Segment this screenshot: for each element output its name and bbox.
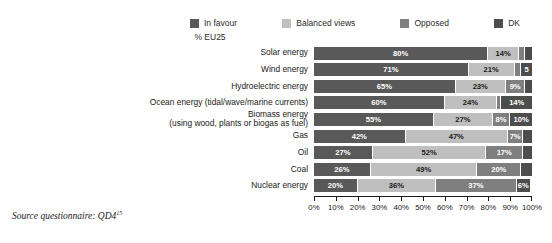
bar-segment-balanced-views: 47% xyxy=(406,130,508,143)
axis-tick xyxy=(358,197,359,201)
source-note-footnote-marker: 15 xyxy=(116,210,122,216)
bar-segment-dk: 10% xyxy=(510,113,532,126)
stacked-bar: 42%47%7% xyxy=(314,130,532,143)
axis-tick xyxy=(488,197,489,201)
axis-tick xyxy=(510,197,511,201)
legend-item: DK xyxy=(494,18,520,28)
axis-tick-label: 30% xyxy=(372,203,388,212)
category-label: Wind energy xyxy=(14,65,314,74)
bar-value-label: 14% xyxy=(509,98,524,107)
bar-segment-dk: 6% xyxy=(517,179,530,192)
bar-value-label: 37% xyxy=(468,181,483,190)
legend-item-label: In favour xyxy=(204,18,237,28)
category-label: Oil xyxy=(14,148,314,157)
chart-row: Ocean energy (tidal/wave/marine currents… xyxy=(14,96,538,110)
legend-swatch-icon xyxy=(400,19,409,28)
axis-tick xyxy=(379,197,380,201)
x-axis-tick-labels: 0%10%20%30%40%50%60%70%80%90%100% xyxy=(300,203,546,215)
category-label: Coal xyxy=(14,165,314,174)
chart-row: Oil27%52%17% xyxy=(14,146,538,160)
bar-value-label: 36% xyxy=(389,181,404,190)
category-label: Gas xyxy=(14,131,314,140)
bar-segment-opposed: 8% xyxy=(493,113,510,126)
legend-item: Opposed xyxy=(400,18,449,28)
axis-tick-label: 20% xyxy=(350,203,366,212)
bar-value-label: 24% xyxy=(463,98,478,107)
bar-value-label: 5 xyxy=(524,65,528,74)
bar-segment-opposed: 20% xyxy=(477,163,521,176)
stacked-bar: 20%36%37%6% xyxy=(314,179,532,192)
bar-value-label: 60% xyxy=(371,98,386,107)
bar-segment-dk: 14% xyxy=(501,96,532,109)
bar-value-label: 20% xyxy=(491,165,506,174)
axis-tick xyxy=(336,197,337,201)
bar-value-label: 27% xyxy=(335,148,350,157)
category-label: Ocean energy (tidal/wave/marine currents… xyxy=(14,98,314,107)
bar-segment-dk xyxy=(525,80,532,93)
bar-segment-dk xyxy=(523,130,532,143)
chart-row: Biomass energy (using wood, plants or bi… xyxy=(14,112,538,126)
axis-tick-label: 90% xyxy=(502,203,518,212)
axis-tick-label: 40% xyxy=(393,203,409,212)
bar-value-label: 7% xyxy=(510,132,521,141)
bar-segment-in-favour: 55% xyxy=(314,113,434,126)
axis-tick xyxy=(423,197,424,201)
stacked-bar: 27%52%17% xyxy=(314,146,532,159)
bar-value-label: 26% xyxy=(334,165,349,174)
stacked-bar: 60%24%14% xyxy=(314,96,532,109)
bar-segment-dk: 5 xyxy=(521,63,532,76)
axis-tick-label: 80% xyxy=(481,203,497,212)
bar-segment-balanced-views: 52% xyxy=(373,146,486,159)
bar-value-label: 8% xyxy=(495,115,506,124)
bar-segment-balanced-views: 23% xyxy=(456,80,506,93)
bar-segment-in-favour: 80% xyxy=(314,47,488,60)
bar-segment-balanced-views: 36% xyxy=(358,179,436,192)
axis-tick-label: 10% xyxy=(328,203,344,212)
bar-segment-opposed: 37% xyxy=(436,179,517,192)
bar-value-label: 23% xyxy=(473,82,488,91)
axis-tick xyxy=(467,197,468,201)
bar-segment-balanced-views: 27% xyxy=(434,113,493,126)
chart-row: Wind energy71%21%5 xyxy=(14,63,538,77)
axis-tick xyxy=(314,197,315,201)
bar-value-label: 14% xyxy=(496,49,511,58)
stacked-bar: 26%49%20% xyxy=(314,163,532,176)
bar-value-label: 55% xyxy=(366,115,381,124)
chart-subtitle: % EU25 xyxy=(0,32,420,42)
bar-value-label: 9% xyxy=(510,82,521,91)
bar-segment-in-favour: 65% xyxy=(314,80,456,93)
bar-segment-opposed: 17% xyxy=(486,146,523,159)
source-note-text: Source questionnaire: QD4 xyxy=(12,211,116,221)
bar-segment-in-favour: 42% xyxy=(314,130,406,143)
bar-segment-balanced-views: 49% xyxy=(371,163,478,176)
bar-segment-balanced-views: 21% xyxy=(469,63,515,76)
legend-item-label: DK xyxy=(508,18,520,28)
axis-tick-label: 70% xyxy=(459,203,475,212)
category-label: Nuclear energy xyxy=(14,181,314,190)
legend-item: Balanced views xyxy=(282,18,355,28)
chart-row: Hydroelectric energy65%23%9% xyxy=(14,79,538,93)
bar-value-label: 52% xyxy=(421,148,436,157)
bar-segment-in-favour: 71% xyxy=(314,63,469,76)
chart-legend: In favourBalanced viewsOpposedDK xyxy=(190,16,520,30)
bar-value-label: 42% xyxy=(352,132,367,141)
chart-container: In favourBalanced viewsOpposedDK % EU25 … xyxy=(0,0,552,243)
bar-segment-in-favour: 20% xyxy=(314,179,358,192)
legend-item-label: Opposed xyxy=(414,18,449,28)
category-label: Hydroelectric energy xyxy=(14,82,314,91)
bar-segment-opposed: 9% xyxy=(506,80,526,93)
bar-value-label: 21% xyxy=(484,65,499,74)
bar-value-label: 10% xyxy=(513,115,528,124)
bar-segment-in-favour: 60% xyxy=(314,96,445,109)
bar-value-label: 6% xyxy=(518,181,529,190)
category-label: Biomass energy (using wood, plants or bi… xyxy=(14,110,314,128)
axis-tick xyxy=(401,197,402,201)
bar-segment-opposed: 7% xyxy=(508,130,523,143)
bar-segment-dk xyxy=(523,146,532,159)
legend-swatch-icon xyxy=(282,19,291,28)
legend-swatch-icon xyxy=(494,19,503,28)
bar-value-label: 71% xyxy=(383,65,398,74)
bar-segment-in-favour: 26% xyxy=(314,163,371,176)
chart-row: Nuclear energy20%36%37%6% xyxy=(14,179,538,193)
axis-tick xyxy=(531,197,532,201)
